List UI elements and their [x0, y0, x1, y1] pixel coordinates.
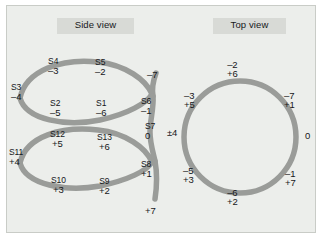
label-top-northeast: –7 +1: [284, 91, 295, 109]
side-view-title: Side view: [57, 18, 134, 34]
top-view-circle: [184, 81, 296, 193]
label-s7-value: 0: [145, 131, 155, 140]
label-s3-value: –4: [11, 92, 21, 101]
label-s4: S4 –3: [48, 57, 58, 75]
label-top-south-lower: +2: [227, 197, 238, 206]
label-top-north: –2 +6: [227, 60, 238, 78]
diagram-graphics: [0, 0, 322, 238]
label-top-northwest: –3 +5: [184, 91, 195, 109]
label-top-west: ±4: [167, 128, 177, 137]
label-s7: S7 0: [145, 122, 155, 140]
label-s2: S2 –5: [50, 99, 60, 117]
label-spine-bottom-end: +7: [145, 206, 156, 215]
label-s8-value: +1: [141, 169, 152, 178]
label-s9-value: +2: [99, 186, 110, 195]
label-s9: S9 +2: [99, 177, 110, 195]
label-top-southwest: –5 +3: [183, 166, 194, 184]
label-top-east: 0: [305, 131, 310, 140]
label-top-northwest-lower: +5: [184, 100, 195, 109]
label-s11: S11 +4: [9, 148, 23, 166]
label-s1-value: –6: [96, 108, 106, 117]
side-spine-lower: [155, 161, 157, 199]
side-upper-loop-lower-arc: [20, 94, 152, 123]
label-top-north-lower: +6: [227, 69, 238, 78]
label-s8: S8 +1: [141, 160, 152, 178]
label-s6-value: –1: [141, 106, 151, 115]
label-s3: S3 –4: [11, 83, 21, 101]
label-s10-value: +3: [51, 185, 66, 194]
top-view-title: Top view: [213, 18, 286, 34]
side-lower-loop: [20, 129, 152, 163]
label-top-southeast: –1 +7: [285, 169, 296, 187]
label-spine-top-end: –7: [147, 70, 157, 79]
side-lower-loop-lower-arc: [20, 162, 152, 188]
label-s12: S12 +5: [50, 130, 65, 148]
label-top-south: –6 +2: [227, 188, 238, 206]
label-s6: S6 –1: [141, 97, 151, 115]
label-s1: S1 –6: [96, 99, 106, 117]
label-s10: S10 +3: [51, 176, 66, 194]
label-s13: S13 +6: [97, 133, 112, 151]
label-top-southeast-lower: +7: [285, 178, 296, 187]
label-top-southwest-lower: +3: [183, 175, 194, 184]
label-s4-value: –3: [48, 66, 58, 75]
label-s12-value: +5: [50, 139, 65, 148]
side-upper-loop: [20, 61, 152, 98]
label-s5-value: –2: [95, 67, 105, 76]
figure-container: Side view Top view S4 –3 S5 –2 S3 –4 S2 …: [0, 0, 322, 238]
label-s5: S5 –2: [95, 58, 105, 76]
label-top-northeast-lower: +1: [284, 100, 295, 109]
label-s13-value: +6: [97, 142, 112, 151]
label-s2-value: –5: [50, 108, 60, 117]
label-s11-value: +4: [9, 157, 23, 166]
